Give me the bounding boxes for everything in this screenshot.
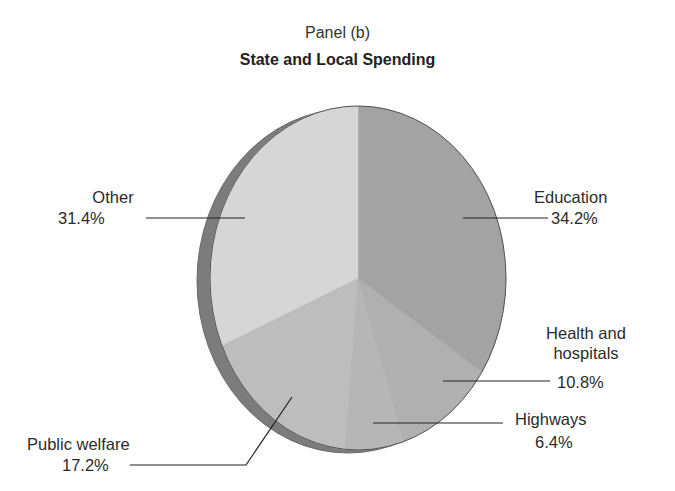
label-health-line1: Health and <box>532 323 640 343</box>
label-public-welfare: Public welfare <box>27 434 130 454</box>
label-other-value: 31.4% <box>58 208 105 228</box>
label-health-value: 10.8% <box>557 372 604 392</box>
highways-value: 6.4% <box>535 432 573 452</box>
label-highways: Highways <box>515 409 587 429</box>
public-welfare-value: 17.2% <box>62 455 109 475</box>
label-public-welfare-name: Public welfare <box>27 434 130 454</box>
label-highways-name: Highways <box>515 409 587 429</box>
label-health: Health and hospitals <box>532 323 640 363</box>
pie-slices <box>210 106 506 450</box>
label-other-name: Other <box>68 187 158 207</box>
label-highways-value: 6.4% <box>535 432 573 452</box>
label-education: Education <box>534 187 607 207</box>
label-health-line2: hospitals <box>532 343 640 363</box>
health-value: 10.8% <box>557 372 604 392</box>
other-value: 31.4% <box>58 208 105 228</box>
label-education-name: Education <box>534 187 607 207</box>
label-education-value: 34.2% <box>551 208 598 228</box>
label-public-welfare-value: 17.2% <box>62 455 109 475</box>
education-value: 34.2% <box>551 208 598 228</box>
label-other: Other <box>68 187 158 207</box>
